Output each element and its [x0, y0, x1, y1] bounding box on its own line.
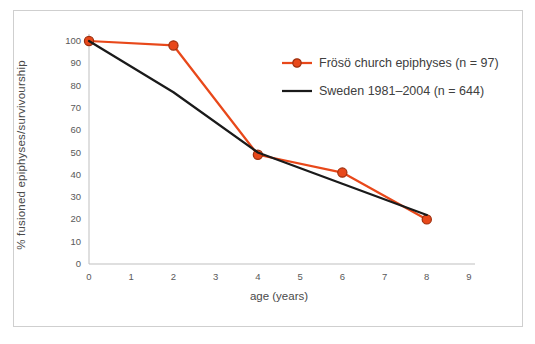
y-axis-title: % fusioned epiphyses/survivourship [15, 40, 31, 270]
sweden-series-swatch-icon [282, 84, 312, 98]
y-tick-label: 10 [51, 236, 81, 247]
froso-series-swatch-icon [282, 56, 312, 70]
x-tick-label: 8 [412, 271, 442, 282]
screenshot-root: % fusioned epiphyses/survivourship age (… [0, 0, 535, 344]
y-tick-label: 20 [51, 213, 81, 224]
y-tick-label: 0 [51, 258, 81, 269]
data-point-marker [169, 41, 178, 50]
legend-item-froso: Frösö church epiphyses (n = 97) [282, 53, 499, 72]
y-tick-label: 90 [51, 57, 81, 68]
y-tick-label: 80 [51, 80, 81, 91]
x-tick-label: 9 [454, 271, 484, 282]
x-tick-label: 1 [116, 271, 146, 282]
data-point-marker [422, 215, 431, 224]
y-tick-label: 50 [51, 147, 81, 158]
legend-label-sweden: Sweden 1981–2004 (n = 644) [319, 84, 484, 98]
y-tick-label: 70 [51, 102, 81, 113]
x-tick-label: 4 [243, 271, 273, 282]
data-point-marker [338, 168, 347, 177]
legend: Frösö church epiphyses (n = 97) Sweden 1… [282, 53, 499, 100]
x-tick-label: 7 [370, 271, 400, 282]
legend-label-froso: Frösö church epiphyses (n = 97) [319, 56, 499, 70]
chart-frame: % fusioned epiphyses/survivourship age (… [13, 10, 523, 327]
y-tick-label: 60 [51, 124, 81, 135]
legend-item-sweden: Sweden 1981–2004 (n = 644) [282, 81, 499, 100]
x-tick-label: 5 [285, 271, 315, 282]
x-axis-title: age (years) [89, 290, 469, 302]
x-tick-label: 3 [201, 271, 231, 282]
y-tick-label: 30 [51, 191, 81, 202]
y-tick-label: 40 [51, 169, 81, 180]
x-tick-label: 0 [74, 271, 104, 282]
x-tick-label: 6 [327, 271, 357, 282]
y-tick-label: 100 [51, 35, 81, 46]
x-tick-label: 2 [158, 271, 188, 282]
